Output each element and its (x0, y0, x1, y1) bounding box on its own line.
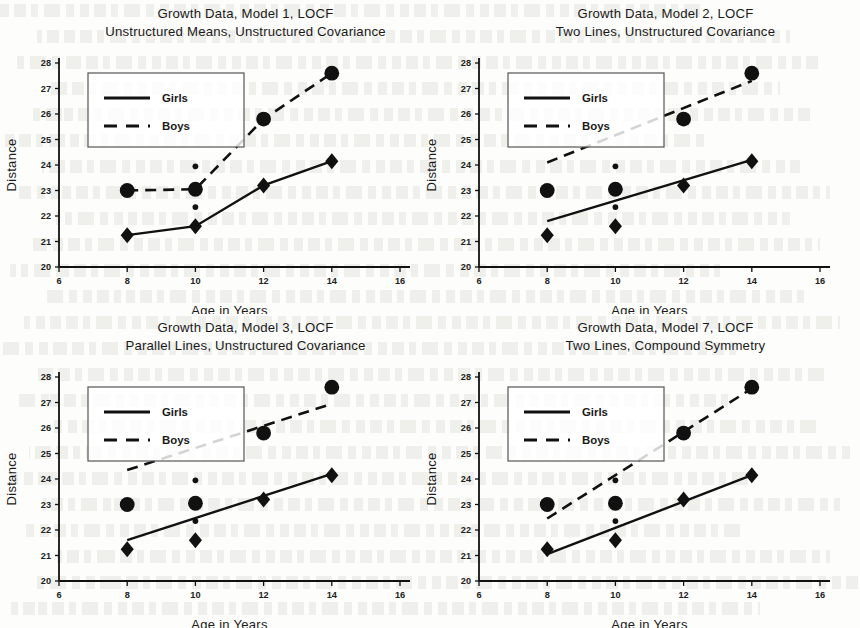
y-tick-label: 22 (41, 525, 51, 535)
y-tick-label: 25 (41, 449, 51, 459)
panel-title-line2: Two Lines, Compound Symmetry (565, 338, 765, 353)
panel-title-line1: Growth Data, Model 7, LOCF (577, 320, 753, 335)
x-axis-label: Age in Years (191, 617, 268, 628)
data-marker-boys (539, 183, 554, 198)
x-tick-label: 8 (544, 590, 549, 600)
panel-title-line1: Growth Data, Model 3, LOCF (158, 320, 334, 335)
y-axis-label: Distance (424, 453, 439, 506)
data-marker-boys (676, 426, 691, 441)
x-tick-label: 14 (746, 590, 757, 600)
legend-label-boys: Boys (582, 434, 610, 446)
x-tick-label: 12 (258, 590, 268, 600)
data-marker-girls (189, 218, 202, 234)
legend-label-boys: Boys (162, 434, 190, 446)
panel-title-line2: Parallel Lines, Unstructured Covariance (125, 338, 365, 353)
y-tick-label: 27 (41, 84, 51, 94)
x-tick-label: 10 (610, 276, 620, 286)
x-tick-label: 6 (476, 276, 481, 286)
fit-line-girls (547, 475, 752, 554)
x-tick-label: 8 (125, 276, 130, 286)
fit-line-girls (127, 474, 332, 540)
legend-label-girls: Girls (162, 406, 188, 418)
x-tick-label: 14 (327, 276, 338, 286)
y-tick-label: 27 (460, 84, 470, 94)
legend-label-boys: Boys (162, 120, 190, 132)
chart-panel-4: Growth Data, Model 7, LOCFTwo Lines, Com… (420, 314, 840, 628)
data-marker-girls (540, 541, 553, 557)
x-tick-label: 16 (814, 590, 824, 600)
x-tick-label: 12 (258, 276, 268, 286)
data-marker-girls (608, 218, 621, 234)
chart-svg-2: Growth Data, Model 2, LOCFTwo Lines, Uns… (420, 0, 840, 314)
x-tick-label: 12 (678, 276, 688, 286)
y-tick-label: 23 (460, 500, 470, 510)
data-marker-boys (188, 496, 203, 511)
y-tick-label: 21 (460, 237, 470, 247)
small-data-dot (193, 477, 199, 483)
y-tick-label: 25 (460, 449, 470, 459)
y-axis-label: Distance (424, 139, 439, 192)
data-marker-boys (676, 112, 691, 127)
y-tick-label: 21 (460, 551, 470, 561)
y-tick-label: 20 (460, 262, 470, 272)
data-marker-boys (744, 380, 759, 395)
data-marker-girls (677, 491, 690, 507)
y-tick-label: 28 (460, 58, 470, 68)
x-tick-label: 16 (395, 276, 405, 286)
data-marker-girls (257, 177, 270, 193)
chart-svg-3: Growth Data, Model 3, LOCFParallel Lines… (0, 314, 420, 628)
data-marker-girls (540, 227, 553, 243)
x-axis-label: Age in Years (191, 303, 268, 314)
data-marker-boys (744, 66, 759, 81)
data-marker-boys (539, 497, 554, 512)
data-marker-boys (608, 496, 623, 511)
legend-box (508, 387, 664, 461)
small-data-dot (193, 204, 199, 210)
y-tick-label: 25 (41, 135, 51, 145)
x-tick-label: 16 (395, 590, 405, 600)
data-marker-girls (745, 467, 758, 483)
x-tick-label: 14 (327, 590, 338, 600)
small-data-dot (612, 477, 618, 483)
y-tick-label: 26 (460, 423, 470, 433)
y-tick-label: 23 (41, 186, 51, 196)
legend-label-boys: Boys (582, 120, 610, 132)
y-tick-label: 26 (460, 109, 470, 119)
small-data-dot (612, 163, 618, 169)
data-marker-boys (608, 182, 623, 197)
panel-title-line2: Two Lines, Unstructured Covariance (555, 24, 774, 39)
data-marker-girls (121, 541, 134, 557)
x-tick-label: 8 (544, 276, 549, 286)
chart-panel-3: Growth Data, Model 3, LOCFParallel Lines… (0, 314, 420, 628)
y-tick-label: 22 (41, 211, 51, 221)
fit-line-girls (127, 161, 332, 235)
y-tick-label: 22 (460, 211, 470, 221)
y-tick-label: 24 (41, 474, 52, 484)
chart-svg-1: Growth Data, Model 1, LOCFUnstructured M… (0, 0, 420, 314)
y-tick-label: 21 (41, 237, 51, 247)
x-tick-label: 10 (190, 590, 200, 600)
data-marker-girls (189, 532, 202, 548)
x-tick-label: 10 (610, 590, 620, 600)
y-tick-label: 26 (41, 109, 51, 119)
data-marker-girls (745, 153, 758, 169)
data-marker-boys (324, 66, 339, 81)
data-marker-girls (121, 227, 134, 243)
x-tick-label: 12 (678, 590, 688, 600)
x-axis-label: Age in Years (611, 303, 688, 314)
y-tick-label: 28 (460, 372, 470, 382)
x-tick-label: 10 (190, 276, 200, 286)
panel-title-line2: Unstructured Means, Unstructured Covaria… (105, 24, 386, 39)
fit-line-girls (547, 160, 752, 221)
y-tick-label: 24 (41, 160, 52, 170)
x-tick-label: 16 (814, 276, 824, 286)
x-tick-label: 6 (56, 276, 61, 286)
y-tick-label: 24 (460, 474, 471, 484)
x-axis-label: Age in Years (611, 617, 688, 628)
y-tick-label: 23 (460, 186, 470, 196)
legend-label-girls: Girls (162, 92, 188, 104)
y-tick-label: 20 (41, 262, 51, 272)
data-marker-boys (324, 380, 339, 395)
x-tick-label: 8 (125, 590, 130, 600)
x-tick-label: 6 (476, 590, 481, 600)
